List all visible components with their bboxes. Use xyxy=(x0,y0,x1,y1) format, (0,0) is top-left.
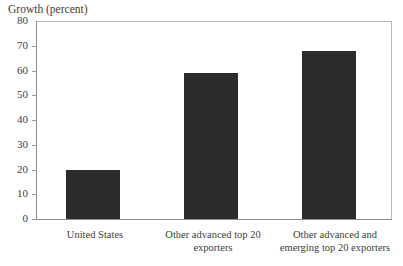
y-axis-tick-label-70: 70 xyxy=(17,38,28,53)
y-axis-tick-label-0: 0 xyxy=(23,211,29,226)
y-axis-tick-label-20: 20 xyxy=(17,162,28,177)
x-axis-line xyxy=(36,219,392,220)
x-axis-label-other-advanced-and-emerging-top-20-exporters: Other advanced and emerging top 20 expor… xyxy=(272,228,398,254)
y-axis-tick-label-30: 30 xyxy=(17,137,28,152)
bars-layer xyxy=(37,21,391,219)
y-axis-tick-label-80: 80 xyxy=(17,13,28,28)
bar-united-states[interactable] xyxy=(66,170,120,220)
y-axis-tick-label-50: 50 xyxy=(17,87,28,102)
bar-other-advanced-top-20-exporters[interactable] xyxy=(184,73,238,219)
bar-chart-figure: Growth (percent) 80 70 60 50 40 30 20 10… xyxy=(0,0,403,266)
x-axis-label-united-states: United States xyxy=(36,228,154,241)
x-axis-label-other-advanced-top-20-exporters: Other advanced top 20 exporters xyxy=(154,228,272,254)
y-axis-tick-label-40: 40 xyxy=(17,112,28,127)
y-axis-tick-label-60: 60 xyxy=(17,63,28,78)
bar-other-advanced-and-emerging-top-20-exporters[interactable] xyxy=(302,51,356,219)
y-axis-tick-mark-0 xyxy=(32,219,37,220)
y-axis-tick-label-10: 10 xyxy=(17,186,28,201)
